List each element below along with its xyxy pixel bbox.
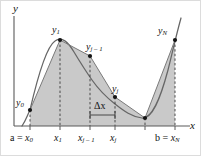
label-yjm1-sub: j – 1 <box>90 45 102 52</box>
tick-label-x1: x1 <box>54 133 62 144</box>
tick-label-xj: xj <box>110 133 116 144</box>
tick-label-x0: a = x0 <box>10 133 33 144</box>
tick-label-x0-sub: 0 <box>30 136 33 143</box>
label-y1-sub: 1 <box>56 28 59 35</box>
tick-label-xj-sub: j <box>114 136 116 143</box>
tick-label-xjm1-sub: j – 1 <box>82 136 94 143</box>
node-dot-y1 <box>58 38 62 42</box>
node-dot-yN <box>173 38 177 42</box>
label-yN: yN <box>158 26 167 37</box>
tick-label-xN-prefix: b = <box>155 132 171 143</box>
label-yjm1: yj – 1 <box>86 42 103 53</box>
y-axis-label: y <box>13 3 18 14</box>
label-y1: y1 <box>52 25 60 36</box>
node-dot-y0 <box>28 108 32 112</box>
tick-label-xjm1: xj – 1 <box>78 133 95 144</box>
label-yj: yj <box>112 84 118 95</box>
tick-label-xN-sub: N <box>175 136 180 143</box>
label-y0-sub: 0 <box>20 101 23 108</box>
label-delta-x-text: Δx <box>94 100 105 111</box>
x-axis-label: x <box>190 120 195 131</box>
label-delta-x: Δx <box>94 101 105 111</box>
tick-label-x1-sub: 1 <box>58 136 61 143</box>
tick-label-xN: b = xN <box>155 133 180 144</box>
label-y0: y0 <box>16 98 24 109</box>
node-dot-min <box>143 116 147 120</box>
label-yN-sub: N <box>162 29 167 36</box>
node-dot-yj <box>113 95 117 99</box>
tick-label-x0-prefix: a = <box>10 132 25 143</box>
node-dot-yjm1 <box>88 54 92 58</box>
trapezoidal-rule-figure: y x y0 y1 yj – 1 yj yN Δx a = x0 x1 xj –… <box>0 0 201 156</box>
label-yj-sub: j <box>116 87 118 94</box>
